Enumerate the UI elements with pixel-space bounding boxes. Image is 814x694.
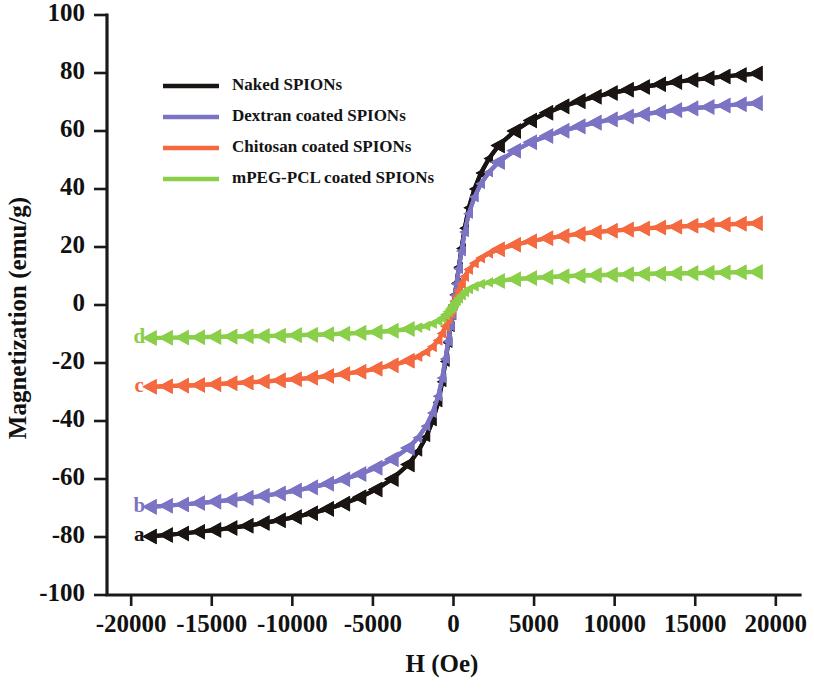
series-marker (700, 217, 714, 233)
series-marker (303, 505, 317, 521)
series-marker (336, 366, 350, 382)
series-marker (207, 329, 221, 345)
series-marker (668, 74, 682, 90)
curve-tag-a: a (134, 522, 145, 546)
series-marker (748, 66, 762, 82)
series-marker (700, 99, 714, 115)
series-marker (255, 488, 269, 504)
series-marker (732, 216, 746, 232)
y-axis-ticks (94, 15, 107, 595)
series-marker (635, 106, 649, 122)
series-marker (587, 224, 601, 240)
y-axis-tick-labels: -100-80-60-40-20020406080100 (39, 0, 85, 606)
series-marker (158, 498, 172, 514)
series-marker (619, 266, 633, 282)
y-tick-label: -100 (39, 579, 85, 606)
series-marker (684, 72, 698, 88)
x-tick-label: 10000 (583, 610, 646, 637)
series-marker (652, 266, 666, 282)
series-marker (571, 119, 585, 135)
series-marker (700, 265, 714, 281)
series-marker (716, 265, 730, 281)
series-marker (223, 329, 237, 345)
series-marker (352, 489, 366, 505)
series-marker (684, 218, 698, 234)
series-marker (271, 373, 285, 389)
series-marker (239, 329, 253, 345)
series-marker (287, 483, 301, 499)
series-marker (507, 271, 521, 287)
series-marker (223, 520, 237, 536)
series-marker (223, 376, 237, 392)
series-marker (384, 358, 398, 374)
series-marker (400, 321, 414, 337)
series-marker (287, 371, 301, 387)
series-marker (352, 364, 366, 380)
series-marker (716, 217, 730, 233)
series-marker (303, 480, 317, 496)
x-tick-label: -15000 (176, 610, 247, 637)
series-marker (700, 70, 714, 86)
series-marker (732, 67, 746, 83)
series-marker (539, 231, 553, 247)
curve-tag-d: d (133, 324, 145, 348)
series-marker (320, 368, 334, 384)
series-marker (271, 512, 285, 528)
series-marker (271, 328, 285, 344)
curve-tag-layer: abcd (133, 324, 145, 546)
series-marker (603, 223, 617, 239)
legend-label: mPEG-PCL coated SPIONs (232, 168, 434, 187)
x-tick-label: 20000 (745, 610, 808, 637)
series-marker (635, 221, 649, 237)
series-marker (175, 497, 189, 513)
x-tick-label: 5000 (509, 610, 559, 637)
series-marker (603, 85, 617, 101)
series-marker (748, 215, 762, 231)
series-marker (748, 95, 762, 111)
series-marker (652, 220, 666, 236)
series-marker (571, 268, 585, 284)
series-marker (191, 524, 205, 540)
y-axis-title: Magnetization (emu/g) (4, 197, 32, 439)
x-tick-label: 15000 (664, 610, 727, 637)
series-marker (652, 104, 666, 120)
series-marker (619, 222, 633, 238)
series-marker (191, 495, 205, 511)
series-marker (191, 329, 205, 345)
series-marker (555, 228, 569, 244)
y-tick-label: 20 (60, 231, 85, 258)
series-marker (287, 509, 301, 525)
series-marker (684, 101, 698, 117)
series-marker (619, 82, 633, 98)
series-marker (368, 482, 382, 498)
series-marker (603, 267, 617, 283)
y-tick-label: -60 (52, 463, 85, 490)
series-marker (732, 97, 746, 113)
x-axis-ticks (131, 595, 776, 606)
series-marker (239, 518, 253, 534)
series-marker (571, 93, 585, 109)
series-marker (716, 98, 730, 114)
series-marker (255, 515, 269, 531)
series-marker (400, 353, 414, 369)
series-marker (668, 102, 682, 118)
series-marker (484, 277, 493, 287)
series-marker (175, 526, 189, 542)
series-marker (271, 486, 285, 502)
series-marker (191, 377, 205, 393)
y-tick-label: 80 (60, 57, 85, 84)
series-marker (175, 330, 189, 346)
series-marker (223, 492, 237, 508)
curve-tag-b: b (133, 493, 145, 517)
series-marker (539, 269, 553, 285)
series-marker (555, 269, 569, 285)
series-marker (635, 266, 649, 282)
series-marker (320, 476, 334, 492)
series-marker (336, 472, 350, 488)
series-marker (303, 327, 317, 343)
series-marker (255, 328, 269, 344)
y-tick-label: -40 (52, 405, 85, 432)
series-marker (571, 226, 585, 242)
series-marker (320, 501, 334, 517)
series-marker (523, 233, 537, 249)
